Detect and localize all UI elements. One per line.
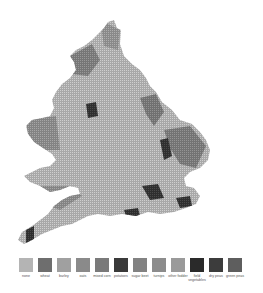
legend-swatch <box>95 258 109 272</box>
legend-item-turnips: turnips <box>149 256 169 278</box>
legend-swatch <box>76 258 90 272</box>
legend-swatch <box>133 258 147 272</box>
legend-item-oats: oats <box>73 256 93 278</box>
legend-item-none: none <box>16 256 36 278</box>
legend-item-green-peas: green peas <box>225 256 245 278</box>
legend-swatch <box>19 258 33 272</box>
legend-item-wheat: wheat <box>35 256 55 278</box>
legend-swatch <box>171 258 185 272</box>
legend-swatch <box>114 258 128 272</box>
legend-swatch <box>190 258 204 272</box>
legend-swatch <box>228 258 242 272</box>
legend-item-barley: barley <box>54 256 74 278</box>
legend-item-potatoes: potatoes <box>111 256 131 278</box>
legend-item-sugar-beet: sugar beet <box>130 256 150 278</box>
legend-item-dry-peas: dry peas <box>206 256 226 278</box>
crop-map <box>0 0 263 250</box>
legend-item-other-fodder: other fodder <box>168 256 188 278</box>
legend-item-field-vegetables: field vegetables <box>187 256 207 282</box>
legend-swatch <box>152 258 166 272</box>
legend-item-mixed-corn: mixed corn <box>92 256 112 278</box>
legend-swatch <box>57 258 71 272</box>
legend: none wheat barley oats mixed corn potato… <box>0 256 263 293</box>
legend-swatch <box>38 258 52 272</box>
legend-swatch <box>209 258 223 272</box>
